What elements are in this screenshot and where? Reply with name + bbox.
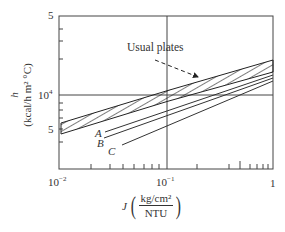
y-tick-base: 10 xyxy=(38,89,49,101)
x-tick-base: 10 xyxy=(156,176,167,188)
annotation-arrow xyxy=(155,60,198,77)
x-tick-label-right: 1 xyxy=(270,178,276,189)
y-axis-label: h (kcal/h m² °C) xyxy=(8,50,34,140)
y-tick-exp: 4 xyxy=(49,88,53,96)
y-tick-label-1e4: 104 xyxy=(38,89,53,101)
x-tick-label-left: 10−2 xyxy=(48,176,66,188)
x-axis-label: J ( kg/cm² NTU ) xyxy=(122,192,183,219)
y-tick-label-top: 5 xyxy=(48,10,54,21)
y-tick-label-low: 5 xyxy=(48,124,54,135)
right-paren: ) xyxy=(176,193,181,219)
annotation-usual-plates: Usual plates xyxy=(127,42,184,54)
curve-label-c: C xyxy=(108,145,115,157)
x-tick-label-mid: 10−1 xyxy=(156,176,174,188)
left-paren: ( xyxy=(131,193,136,219)
x-axis-units: kg/cm² NTU xyxy=(139,192,174,219)
x-units-numerator: kg/cm² xyxy=(139,192,174,206)
x-tick-base: 10 xyxy=(48,176,59,188)
x-axis-symbol: J xyxy=(122,200,127,212)
x-tick-exp: −1 xyxy=(167,175,174,183)
x-tick-exp: −2 xyxy=(59,175,66,183)
y-axis-symbol: h xyxy=(8,50,21,140)
x-axis-ticks xyxy=(91,161,268,169)
y-axis-units: (kcal/h m² °C) xyxy=(21,50,34,140)
curve-label-b: B xyxy=(97,137,104,149)
x-units-denominator: NTU xyxy=(145,206,168,219)
